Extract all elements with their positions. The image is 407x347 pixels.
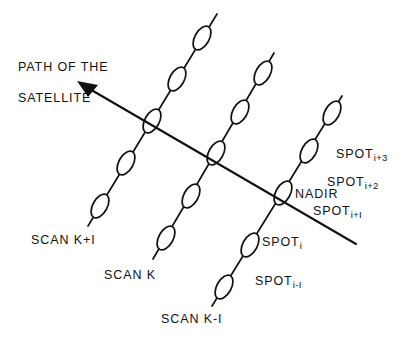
- nadir-label: NADIR: [295, 188, 338, 201]
- spot-scan-geometry-diagram: PATH OF THE SATELLITE SPOTi+3 SPOTi+2 NA…: [0, 0, 407, 347]
- spot-ellipse: [178, 181, 203, 211]
- spot-ellipse: [164, 64, 189, 94]
- spot-ellipse nadir-spot: [270, 178, 295, 208]
- path-of-satellite-label-line2: SATELLITE: [18, 92, 91, 105]
- spot-i-minus-1-base: SPOT: [255, 274, 293, 288]
- path-of-satellite-label-line1: PATH OF THE: [18, 61, 108, 74]
- spot-ellipse: [87, 191, 112, 221]
- spot-i-plus-1-base: SPOT: [313, 204, 351, 218]
- diagram-canvas: [0, 0, 407, 347]
- scan-k-minus-1-label: SCAN K-I: [161, 313, 222, 326]
- spot-ellipse: [189, 23, 214, 53]
- spot-i-subscript: i: [300, 240, 303, 251]
- spot-i-plus-3-label: SPOTi+3: [336, 148, 388, 163]
- spot-i-plus-3-subscript: i+3: [374, 152, 388, 163]
- spot-i-base: SPOT: [262, 235, 300, 249]
- spot-ellipse: [153, 223, 178, 253]
- spot-i-minus-1-label: SPOTi-I: [255, 275, 302, 290]
- spot-ellipse: [250, 58, 275, 88]
- spot-ellipse: [319, 98, 344, 128]
- scan-k-label: SCAN K: [104, 269, 156, 282]
- spot-ellipse: [211, 272, 236, 302]
- spot-i-plus-2-subscript: i+2: [365, 180, 379, 191]
- spot-ellipse: [237, 230, 262, 260]
- spot-i-plus-1-label: SPOTi+I: [313, 205, 362, 220]
- spot-i-plus-3-base: SPOT: [336, 147, 374, 161]
- scan-k-plus-1-label: SCAN K+I: [31, 234, 96, 247]
- spot-i-minus-1-subscript: i-I: [293, 279, 302, 290]
- spot-ellipse: [113, 148, 138, 178]
- spot-ellipse: [296, 136, 321, 166]
- spot-ellipse: [227, 97, 252, 127]
- spot-i-label: SPOTi: [262, 236, 302, 251]
- spot-i-plus-1-subscript: i+I: [351, 209, 363, 220]
